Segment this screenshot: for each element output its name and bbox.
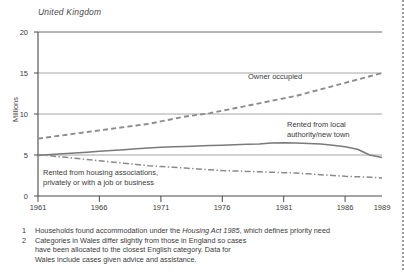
y-axis-ticks [34,32,38,196]
chart-figure: United Kingdom Millions [0,0,404,272]
x-tick-label-1981: 1981 [269,203,299,212]
x-tick-label-1986: 1986 [330,203,360,212]
x-tick-label-1976: 1976 [207,203,237,212]
y-tick-label-5: 5 [2,151,28,160]
footnote-2: 2 Categories in Wales differ slightly fr… [22,236,400,265]
x-tick-label-1961: 1961 [23,203,53,212]
footnote-1: 1 Households found accommodation under t… [22,226,400,236]
x-tick-label-1971: 1971 [146,203,176,212]
y-tick-label-0: 0 [2,192,28,201]
footnote-text-2: Categories in Wales differ slightly from… [35,236,400,265]
x-tick-label-1966: 1966 [84,203,114,212]
y-tick-label-10: 10 [2,110,28,119]
footnotes: 1 Households found accommodation under t… [22,226,400,264]
y-tick-label-20: 20 [2,28,28,37]
series-label-rented-housing-associations: Rented from housing associations, privat… [43,168,158,187]
x-axis-ticks [38,196,345,202]
series-label-owner-occupied: Owner occupied [248,72,302,82]
y-tick-label-15: 15 [2,69,28,78]
footnote-text-1: Households found accommodation under the… [35,226,400,236]
x-tick-label-1989: 1989 [367,203,397,212]
footnote-1-part-a: Households found accommodation under the [35,226,182,235]
footnote-1-italic: Housing Act 1985 [182,226,239,235]
footnote-marker-2: 2 [22,236,35,246]
footnote-marker-1: 1 [22,226,35,236]
footnote-1-part-b: , which defines priority need [240,226,330,235]
series-label-rented-local-authority: Rented from local authority/new town [287,120,350,139]
